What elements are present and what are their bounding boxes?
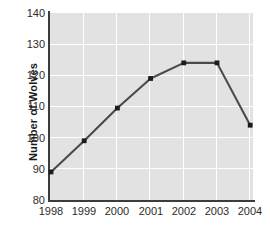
- series-markers: [49, 60, 253, 174]
- data-point-marker: [215, 60, 220, 65]
- data-point-marker: [181, 60, 186, 65]
- data-point-marker: [49, 170, 54, 175]
- data-point-marker: [115, 106, 120, 111]
- x-tick-label: 2004: [230, 206, 270, 217]
- data-series-layer: [0, 0, 270, 228]
- line-chart: Number of Wolves 140 130 120 110 100 90 …: [0, 0, 270, 228]
- data-point-marker: [248, 123, 253, 128]
- data-point-marker: [148, 76, 153, 81]
- data-point-marker: [82, 138, 87, 143]
